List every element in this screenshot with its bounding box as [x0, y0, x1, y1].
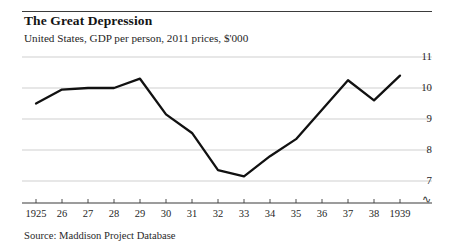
x-axis-tick-label: 27	[83, 208, 94, 220]
x-axis-tick-label: 37	[343, 208, 354, 220]
source-note: Source: Maddison Project Database	[24, 229, 176, 242]
header-rule	[22, 11, 432, 12]
data-line-series	[36, 76, 400, 177]
x-axis-tick-label: 36	[317, 208, 328, 220]
plot-area	[22, 45, 432, 210]
axis-break-icon: ∿	[418, 193, 434, 205]
x-axis-tick-label: 26	[57, 208, 68, 220]
x-axis-tick-label: 32	[213, 208, 224, 220]
x-axis-labels: 1925262728293031323334353637381939	[0, 208, 452, 224]
gridlines	[22, 57, 432, 181]
x-axis-tick-label: 33	[239, 208, 250, 220]
chart-subtitle: United States, GDP per person, 2011 pric…	[24, 31, 248, 45]
x-axis-tick-label: 34	[265, 208, 276, 220]
page-title: The Great Depression	[24, 13, 152, 29]
x-axis-tick-label: 1939	[390, 208, 411, 220]
x-axis-tick-label: 31	[187, 208, 198, 220]
x-axis-tick-label: 1925	[26, 208, 47, 220]
x-axis-tick-label: 28	[109, 208, 120, 220]
x-tick-marks	[36, 199, 400, 203]
x-axis-tick-label: 30	[161, 208, 172, 220]
chart-card: The Great Depression United States, GDP …	[0, 0, 452, 249]
x-axis-tick-label: 38	[369, 208, 380, 220]
x-axis-tick-label: 35	[291, 208, 302, 220]
x-axis-tick-label: 29	[135, 208, 146, 220]
line-chart-svg	[22, 45, 432, 210]
